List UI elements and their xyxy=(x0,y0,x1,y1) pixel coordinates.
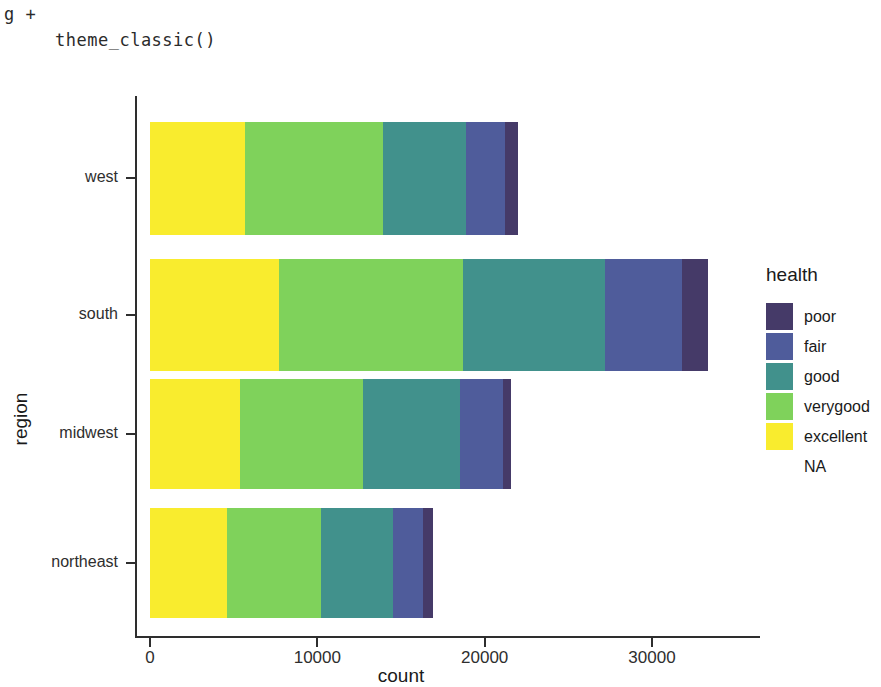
x-tick-mark xyxy=(316,638,318,647)
bar-segment-south-fair xyxy=(605,259,682,371)
bar-segment-northeast-verygood xyxy=(227,508,321,618)
y-tick-label-northeast: northeast xyxy=(51,553,118,571)
bar-segment-midwest-verygood xyxy=(240,379,362,489)
y-tick-label-west: west xyxy=(85,168,118,186)
y-tick-label-south: south xyxy=(79,305,118,323)
legend-label-NA: NA xyxy=(804,458,826,476)
x-tick-label-10000: 10000 xyxy=(272,648,362,668)
legend-swatch-good xyxy=(766,363,793,390)
bar-segment-south-poor xyxy=(682,259,708,371)
x-tick-label-30000: 30000 xyxy=(607,648,697,668)
x-axis-line xyxy=(135,636,760,638)
legend-swatch-NA xyxy=(766,453,793,480)
bar-segment-northeast-poor xyxy=(423,508,433,618)
bar-segment-midwest-fair xyxy=(460,379,504,489)
code-line-g-plus: g + xyxy=(4,4,36,24)
legend-label-good: good xyxy=(804,368,840,386)
x-tick-mark xyxy=(651,638,653,647)
legend-label-fair: fair xyxy=(804,338,826,356)
bar-segment-midwest-good xyxy=(363,379,460,489)
x-tick-label-20000: 20000 xyxy=(440,648,530,668)
bar-segment-west-poor xyxy=(505,122,518,235)
bar-segment-south-good xyxy=(463,259,605,371)
y-tick-mark xyxy=(126,177,135,179)
y-axis-title: region xyxy=(10,379,32,459)
legend-swatch-poor xyxy=(766,303,793,330)
legend-label-verygood: verygood xyxy=(804,398,870,416)
legend-swatch-fair xyxy=(766,333,793,360)
legend-label-excellent: excellent xyxy=(804,428,867,446)
bar-segment-south-excellent xyxy=(150,259,279,371)
bar-segment-northeast-fair xyxy=(393,508,423,618)
x-axis-title: count xyxy=(150,665,652,687)
bar-segment-south-verygood xyxy=(279,259,463,371)
y-tick-label-midwest: midwest xyxy=(59,424,118,442)
x-tick-label-0: 0 xyxy=(105,648,195,668)
bar-segment-west-verygood xyxy=(245,122,382,235)
bar-segment-northeast-good xyxy=(321,508,393,618)
legend-swatch-excellent xyxy=(766,423,793,450)
y-axis-line xyxy=(135,96,137,637)
y-tick-mark xyxy=(126,314,135,316)
legend-swatch-verygood xyxy=(766,393,793,420)
code-block: g + theme_classic() xyxy=(0,0,881,78)
bar-segment-west-excellent xyxy=(150,122,245,235)
bar-segment-midwest-excellent xyxy=(150,379,240,489)
y-tick-mark xyxy=(126,433,135,435)
bar-segment-midwest-poor xyxy=(503,379,511,489)
legend-label-poor: poor xyxy=(804,308,836,326)
bar-segment-west-good xyxy=(383,122,467,235)
code-line-theme-classic: theme_classic() xyxy=(55,30,216,50)
legend-title: health xyxy=(766,264,818,286)
y-tick-mark xyxy=(126,562,135,564)
plot-figure: region count westsouthmidwestnortheast 0… xyxy=(0,78,881,687)
bar-segment-northeast-excellent xyxy=(150,508,227,618)
bar-segment-west-fair xyxy=(466,122,504,235)
x-tick-mark xyxy=(149,638,151,647)
x-tick-mark xyxy=(484,638,486,647)
